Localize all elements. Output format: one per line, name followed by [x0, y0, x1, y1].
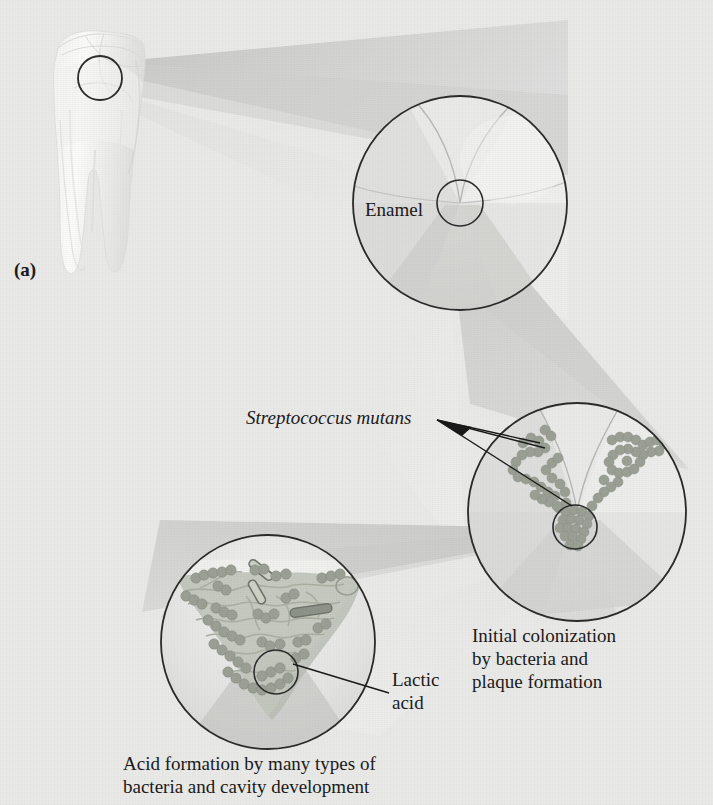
cavity-magnification	[161, 535, 375, 750]
caption-initial-colonization: Initial colonization by bacteria and pla…	[472, 624, 616, 694]
label-enamel: Enamel	[365, 198, 423, 221]
label-streptococcus-mutans: Streptococcus mutans	[246, 406, 412, 429]
label-lactic-acid: Lactic acid	[392, 668, 439, 714]
caption-acid-formation: Acid formation by many types of bacteria…	[123, 752, 376, 798]
panel-label: (a)	[14, 258, 36, 281]
